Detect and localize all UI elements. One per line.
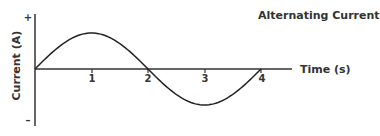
svg-text:4: 4	[259, 73, 266, 84]
x-axis-label: Time (s)	[300, 63, 351, 76]
chart-title: Alternating Current	[258, 9, 380, 22]
x-tick-labels: 1 2 3 4	[89, 73, 266, 84]
svg-text:1: 1	[89, 73, 96, 84]
y-tick-plus: +	[24, 12, 32, 23]
y-axis-label: Current (A)	[10, 41, 23, 101]
svg-text:2: 2	[145, 73, 152, 84]
svg-text:3: 3	[202, 73, 209, 84]
y-tick-minus: –	[26, 115, 31, 126]
